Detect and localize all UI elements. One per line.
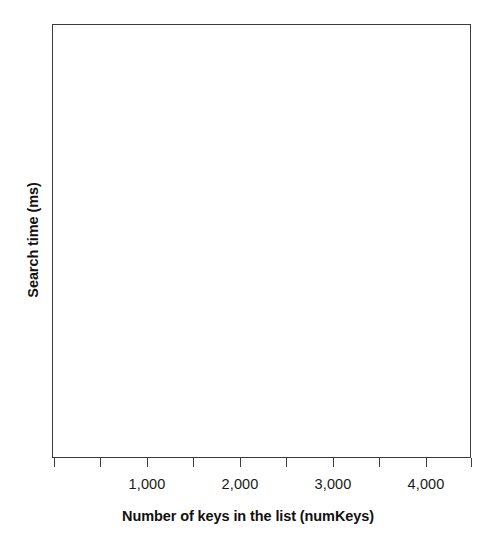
x-axis-tick	[100, 458, 101, 467]
x-axis-tick	[54, 458, 55, 467]
x-axis-tick	[147, 458, 148, 467]
x-axis-tick-group	[0, 458, 496, 472]
x-axis-tick	[379, 458, 380, 467]
plot-series-layer	[53, 25, 470, 457]
x-axis-tick	[193, 458, 194, 467]
x-axis-tick	[240, 458, 241, 467]
chart-figure: 1,0002,0003,0004,000 Number of keys in t…	[0, 0, 496, 543]
x-axis-tick-label: 3,000	[315, 476, 352, 492]
x-axis-tick	[333, 458, 334, 467]
y-axis-title: Search time (ms)	[25, 182, 41, 297]
x-axis-tick-label: 1,000	[129, 476, 166, 492]
x-axis-tick-label-group: 1,0002,0003,0004,000	[0, 476, 496, 498]
y-axis-title-wrapper: Search time (ms)	[22, 150, 44, 330]
x-axis-title: Number of keys in the list (numKeys)	[0, 508, 496, 524]
x-axis-tick	[426, 458, 427, 467]
x-axis-tick	[286, 458, 287, 467]
x-axis-tick-label: 4,000	[408, 476, 445, 492]
x-axis-tick-label: 2,000	[222, 476, 259, 492]
x-axis-tick	[471, 458, 472, 467]
plot-area	[52, 24, 471, 458]
